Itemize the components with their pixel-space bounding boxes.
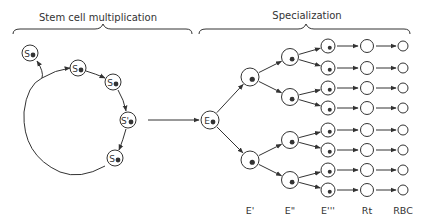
stage-label: E" [285, 205, 295, 216]
self-renewal-loop [24, 78, 105, 175]
header-specialization: Specialization [272, 10, 341, 21]
e-double-prime-cell [282, 49, 299, 66]
nucleus [290, 180, 295, 185]
nucleus [290, 140, 295, 145]
differentiation-arrow [259, 81, 282, 92]
red-blood-cell [398, 185, 408, 195]
committed-cell-label: E [204, 116, 210, 126]
header-stem-cell-multiplication: Stem cell multiplication [39, 12, 157, 23]
nucleus [328, 46, 332, 50]
nucleus [129, 120, 134, 125]
e-triple-prime-cell [321, 81, 335, 95]
nucleus [250, 160, 255, 165]
e-double-prime-cell [282, 132, 299, 149]
red-blood-cell [398, 125, 408, 135]
e-triple-prime-cell [321, 123, 335, 137]
red-blood-cell [398, 83, 408, 93]
differentiation-arrow [299, 132, 320, 138]
stem-cell: S [107, 150, 123, 166]
stage-label: Rt [362, 205, 373, 216]
e-triple-prime-cell [321, 101, 335, 115]
differentiation-arrow [259, 61, 282, 72]
s4-to-s5-arrow [119, 129, 126, 150]
differentiation-arrow [259, 164, 282, 175]
hematopoiesis-diagram: Stem cell multiplication Specialization … [0, 0, 424, 223]
nucleus [328, 150, 332, 154]
nucleus [290, 57, 295, 62]
nucleus [328, 190, 332, 194]
e-triple-prime-cell [321, 61, 335, 75]
stem-cell: S [70, 60, 86, 76]
red-blood-cell [398, 145, 408, 155]
loop-to-s2-arrow [42, 68, 70, 78]
stem-cell-label: S [72, 64, 78, 74]
stem-cell-label: S [24, 49, 30, 59]
nucleus [250, 77, 255, 82]
e-double-prime-cell [282, 89, 299, 106]
reticulocyte [361, 62, 374, 75]
stem-cell-label: S [109, 154, 115, 164]
reticulocyte [361, 164, 374, 177]
stem-cell: S [105, 74, 121, 90]
reticulocyte [361, 144, 374, 157]
reticulocyte [361, 184, 374, 197]
nucleus [31, 53, 36, 58]
differentiation-arrow [299, 182, 320, 188]
nucleus [116, 158, 121, 163]
stem-cell: S' [120, 112, 136, 128]
reticulocyte [361, 82, 374, 95]
s3-to-s4-arrow [118, 90, 126, 111]
brace-specialization [199, 24, 410, 34]
red-blood-cell [398, 63, 408, 73]
nucleus [114, 82, 119, 87]
differentiation-arrow [299, 100, 320, 106]
red-blood-cell [398, 103, 408, 113]
stage-label: E''' [321, 205, 335, 216]
s2-to-s3-arrow [86, 71, 105, 78]
stage-label: E' [246, 205, 255, 216]
nucleus [328, 108, 332, 112]
differentiation-arrow [299, 172, 320, 178]
differentiation-arrow [299, 48, 320, 54]
differentiation-arrow [299, 60, 320, 66]
nucleus [328, 88, 332, 92]
e-prime-cell [241, 151, 259, 169]
differentiation-arrow [299, 142, 320, 148]
nucleus [290, 97, 295, 102]
reticulocyte [361, 102, 374, 115]
e-prime-cell [241, 68, 259, 86]
differentiation-arrow [217, 84, 243, 112]
e-double-prime-cell [282, 172, 299, 189]
stem-cell-label: S [107, 78, 113, 88]
e-triple-prime-cell [321, 183, 335, 197]
differentiation-arrow [299, 90, 320, 95]
red-blood-cell [398, 165, 408, 175]
stem-cell: S [22, 45, 38, 61]
stem-cell-label: S' [121, 116, 129, 126]
loop-to-s1-arrow [37, 61, 42, 78]
e-triple-prime-cell [321, 143, 335, 157]
reticulocyte [361, 40, 374, 53]
stage-label: RBC [393, 205, 413, 216]
differentiation-arrow [217, 127, 243, 153]
nucleus [79, 68, 84, 73]
nucleus [328, 68, 332, 72]
e-triple-prime-cell [321, 163, 335, 177]
differentiation-arrow [259, 144, 282, 155]
nucleus [328, 170, 332, 174]
brace-stem [13, 24, 192, 34]
red-blood-cell [398, 41, 408, 51]
e-triple-prime-cell [321, 39, 335, 53]
nucleus [328, 130, 332, 134]
reticulocyte [361, 124, 374, 137]
committed-cell-e: E [201, 111, 219, 129]
